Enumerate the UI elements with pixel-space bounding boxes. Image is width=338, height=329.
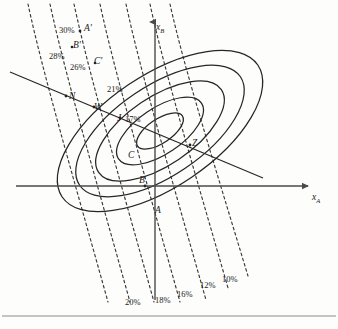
y-axis-label: xB [155, 22, 164, 34]
percent-label-18: 18% [155, 295, 171, 305]
figure-canvas: xB xA 30% 28% 26% 21% 17% 20% 18% 16% 12… [0, 0, 338, 329]
percent-label-12: 12% [200, 280, 216, 290]
percent-label-10: 10% [222, 274, 238, 284]
percent-label-26: 26% [70, 62, 86, 72]
marker-N [65, 95, 68, 98]
percent-label-30: 30% [59, 25, 75, 35]
percent-label-16: 16% [177, 289, 193, 299]
point-label-C-prime: C' [94, 56, 103, 66]
point-label-C: C [128, 150, 135, 160]
diagram-svg: xB xA 30% 28% 26% 21% 17% 20% 18% 16% 12… [0, 0, 338, 329]
dashed-contour-28 [50, 4, 130, 302]
percent-label-20: 20% [125, 297, 141, 307]
point-label-B-prime: B' [73, 40, 82, 50]
dashed-contour-12 [150, 4, 228, 288]
x-axis-label: xA [311, 192, 320, 204]
percent-label-17: 17% [125, 114, 141, 124]
dashed-contour-10 [170, 4, 248, 276]
marker-A-prime [79, 30, 82, 33]
point-label-W: W [94, 102, 103, 112]
dashed-contour-30 [28, 4, 108, 302]
marker-Z [189, 144, 192, 147]
dashed-contour-26 [74, 4, 154, 302]
point-label-A: A [154, 205, 161, 215]
marker-B [144, 185, 147, 188]
ellipse-inner [106, 84, 215, 178]
point-label-A-prime: A' [83, 23, 93, 33]
dashed-contour-group [28, 4, 248, 302]
point-label-B: B [139, 175, 145, 185]
percent-label-21: 21% [107, 84, 123, 94]
contract-line [10, 72, 263, 178]
point-label-Z: Z [192, 138, 198, 148]
percent-label-28: 28% [49, 51, 65, 61]
point-label-N: N [68, 91, 76, 101]
ellipse-middle [80, 61, 241, 200]
